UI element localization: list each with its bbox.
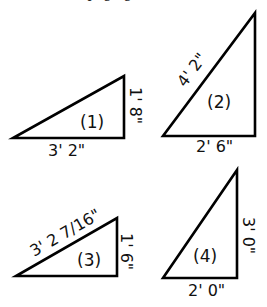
- header-fragment: the page gives the: [62, 0, 184, 1]
- triangles-diagram: the page gives the (1) 3' 2" 1' 8" (2) 2…: [0, 0, 267, 307]
- triangle-4-base: 2' 0": [188, 281, 225, 300]
- triangle-3-height: 1' 6": [117, 233, 136, 270]
- triangle-1-shape: [13, 76, 124, 138]
- triangle-3-label: (3): [77, 250, 101, 270]
- triangle-1-height: 1' 8": [126, 87, 145, 124]
- triangle-2: (2) 2' 6" 4' 2": [163, 13, 255, 156]
- triangle-1-base: 3' 2": [48, 141, 85, 160]
- triangle-4-label: (4): [193, 246, 217, 266]
- triangle-3: (3) 3' 2 7/16" 1' 6": [16, 205, 136, 276]
- triangle-4-height: 3' 0": [239, 217, 258, 254]
- triangle-1-label: (1): [80, 112, 104, 132]
- triangle-2-hypotenuse: 4' 2": [173, 49, 211, 90]
- triangle-2-label: (2): [207, 92, 231, 112]
- triangle-2-base: 2' 6": [196, 137, 233, 156]
- triangle-4: (4) 2' 0" 3' 0": [163, 170, 258, 300]
- triangle-1: (1) 3' 2" 1' 8": [13, 76, 145, 160]
